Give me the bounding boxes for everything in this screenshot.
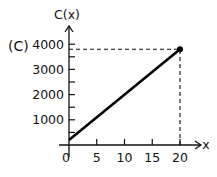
- y-tick-label: 4000: [32, 37, 64, 52]
- endpoint-dot: [177, 46, 183, 52]
- y-tick-label: 3000: [32, 62, 64, 77]
- x-tick-label: 5: [93, 150, 101, 165]
- x-tick-label: 10: [117, 150, 133, 165]
- axis-labels: 100020003000400005101520C(x)x: [32, 7, 210, 165]
- x-tick-label: 15: [144, 150, 160, 165]
- data-line: [69, 46, 183, 140]
- x-tick-label: 0: [62, 150, 70, 165]
- cost-line: [69, 49, 180, 140]
- y-tick-label: 1000: [32, 112, 64, 127]
- x-axis-label: x: [202, 137, 209, 152]
- cost-function-chart: 100020003000400005101520C(x)x: [0, 0, 217, 177]
- y-tick-label: 2000: [32, 87, 64, 102]
- y-axis-label: C(x): [54, 7, 80, 22]
- x-tick-label: 20: [172, 150, 188, 165]
